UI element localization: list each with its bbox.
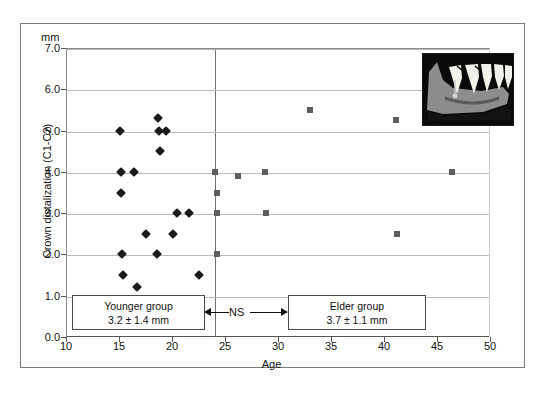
gridline-y <box>67 132 489 133</box>
significance-arrow-right-icon <box>281 308 288 316</box>
y-tick-label: 4.0 <box>8 166 60 178</box>
x-tick-mark <box>278 337 279 342</box>
data-point-square <box>263 210 269 216</box>
y-tick-label: 1.0 <box>8 290 60 302</box>
data-point-square <box>214 251 220 257</box>
significance-arrow-left-icon <box>204 308 211 316</box>
data-point-square <box>449 169 455 175</box>
y-tick-mark <box>61 89 66 90</box>
y-axis-title: Crown distalization (C1-C2) <box>41 81 53 301</box>
gridline-y <box>67 255 489 256</box>
y-tick-label: 7.0 <box>8 42 60 54</box>
x-tick-mark <box>437 337 438 342</box>
data-point-square <box>214 190 220 196</box>
elder-group-stat-box: Elder group 3.7 ± 1.1 mm <box>288 295 426 330</box>
data-point-square <box>394 231 400 237</box>
y-tick-label: 3.0 <box>8 207 60 219</box>
younger-group-stat-box: Younger group 3.2 ± 1.4 mm <box>72 295 205 330</box>
x-tick-mark <box>331 337 332 342</box>
y-tick-label: 2.0 <box>8 248 60 260</box>
y-tick-mark <box>61 254 66 255</box>
y-tick-mark <box>61 213 66 214</box>
y-tick-mark <box>61 172 66 173</box>
x-tick-mark <box>119 337 120 342</box>
mandible-radiograph-inset <box>422 53 514 126</box>
x-tick-mark <box>172 337 173 342</box>
y-tick-mark <box>61 296 66 297</box>
x-axis-title: Age <box>0 358 543 370</box>
y-tick-mark <box>61 48 66 49</box>
x-tick-mark <box>66 337 67 342</box>
mandible-radiograph-svg <box>423 54 513 125</box>
data-point-square <box>235 173 241 179</box>
y-tick-label: 6.0 <box>8 83 60 95</box>
data-point-square <box>212 169 218 175</box>
data-point-square <box>393 117 399 123</box>
data-point-square <box>307 107 313 113</box>
data-point-square <box>214 210 220 216</box>
data-point-square <box>262 169 268 175</box>
y-tick-label: 5.0 <box>8 125 60 137</box>
younger-group-stat: 3.2 ± 1.4 mm <box>73 314 204 328</box>
x-tick-mark <box>384 337 385 342</box>
x-tick-mark <box>225 337 226 342</box>
elder-group-title: Elder group <box>289 300 425 314</box>
younger-group-title: Younger group <box>73 300 204 314</box>
gridline-y <box>67 49 489 50</box>
x-tick-mark <box>490 337 491 342</box>
gridline-y <box>67 214 489 215</box>
y-tick-mark <box>61 131 66 132</box>
elder-group-stat: 3.7 ± 1.1 mm <box>289 314 425 328</box>
significance-label: NS <box>229 306 244 318</box>
